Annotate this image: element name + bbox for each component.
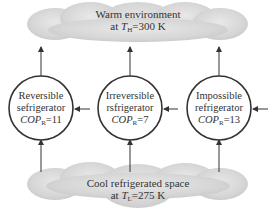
refrigerator-type: Reversible xyxy=(9,90,73,102)
warm-environment-title: Warm environment xyxy=(48,8,228,20)
cool-space-label: Cool refrigerated space at TL=275 K xyxy=(48,177,228,205)
cop-value: COPR=11 xyxy=(9,114,73,129)
cool-space-title: Cool refrigerated space xyxy=(48,177,228,189)
refrigerator-word: rsfrigerator xyxy=(98,102,162,114)
warm-environment-label: Warm environment at TH=300 K xyxy=(48,8,228,36)
cop-value: COPR=7 xyxy=(98,114,162,129)
reversible-refrigerator-label: Reversible sefrigerator COPR=11 xyxy=(9,90,73,129)
warm-environment-temp: at TH=300 K xyxy=(48,20,228,36)
refrigerator-word: sefrigerator xyxy=(9,102,73,114)
refrigerator-type: Impossible xyxy=(187,90,251,102)
cool-space-temp: at TL=275 K xyxy=(48,189,228,205)
impossible-refrigerator-label: Impossible refrigerator COPR=13 xyxy=(187,90,251,129)
cop-value: COPR=13 xyxy=(187,114,251,129)
refrigerator-type: Irreversible xyxy=(98,90,162,102)
refrigerator-word: refrigerator xyxy=(187,102,251,114)
irreversible-refrigerator-label: Irreversible rsfrigerator COPR=7 xyxy=(98,90,162,129)
